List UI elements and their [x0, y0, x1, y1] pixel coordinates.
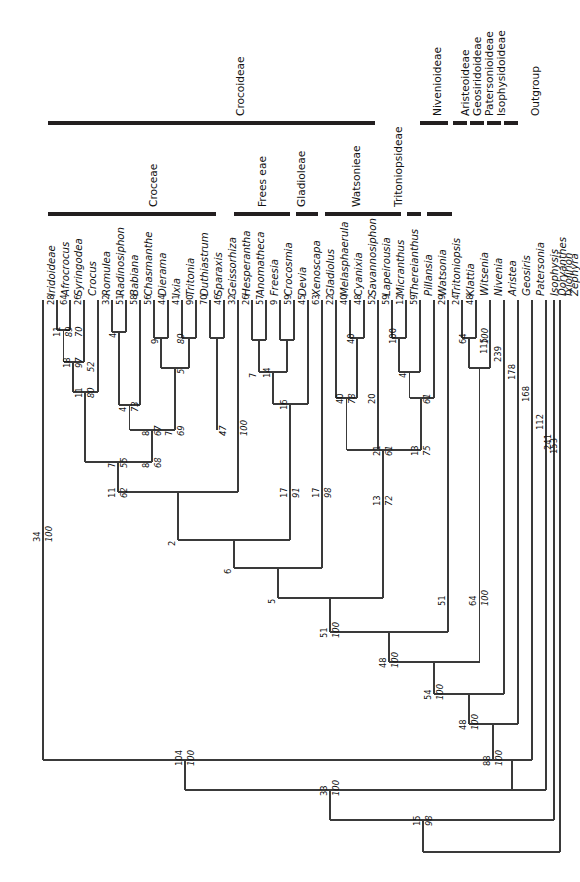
bootstrap-value-83: 13	[373, 495, 381, 506]
branch-length-45: 55	[120, 457, 128, 468]
taxon-label-gladiolus: Gladiolus	[326, 249, 336, 296]
bootstrap-value-86: 51	[320, 627, 328, 638]
bootstrap-value-39: 18	[63, 357, 71, 368]
branch-length-89: 100	[481, 328, 489, 344]
bootstrap-value-27: 24	[452, 294, 460, 305]
branch-length-61: 47	[219, 425, 227, 436]
bootstrap-value-20: 40	[340, 294, 348, 305]
bootstrap-value-105: 33	[320, 785, 328, 796]
taxon-label-melasphaerula: Melasphaerula	[340, 221, 350, 296]
bootstrap-value-0: 28	[47, 294, 55, 305]
bootstrap-value-76: 4	[399, 373, 407, 378]
taxon-label-iridoideae: Iridoideae	[47, 245, 57, 296]
bootstrap-value-95: 54	[424, 689, 432, 700]
branch-length-106: 100	[332, 780, 340, 796]
taxon-label-ixia: Ixia	[172, 278, 182, 296]
branch-length-48: 5	[177, 369, 185, 374]
bootstrap-value-90: 51	[438, 595, 446, 606]
branch-length-92: 100	[481, 590, 489, 606]
taxon-label-hesperantha: Hesperantha	[242, 230, 252, 296]
bootstrap-value-31: 178	[508, 364, 516, 380]
branch-length-80: 61	[385, 445, 393, 456]
taxon-label-pillansia: Pillansia	[424, 254, 434, 296]
branch-length-50: 73	[131, 401, 139, 412]
bar-croceae	[48, 212, 216, 216]
branch-length-67: 91	[292, 487, 300, 498]
taxon-label-micranthus: Micranthus	[396, 240, 406, 296]
label-crocoideae: Crocoideae	[235, 56, 246, 116]
branch-length-100: 100	[495, 750, 503, 766]
branch-length-41: 52	[87, 361, 95, 372]
label-geosiridoideae: Geosiridoideae	[472, 37, 483, 116]
branch-length-40: 97	[75, 357, 83, 368]
branch-length-53: 67	[154, 425, 162, 436]
bootstrap-value-24: 12	[396, 294, 404, 305]
bootstrap-value-73: 40	[336, 393, 344, 404]
bar-isophysidoideae	[504, 121, 518, 125]
taxon-label-crocus: Crocus	[88, 261, 98, 296]
taxon-label-chasmanthe: Chasmanthe	[144, 232, 154, 296]
bootstrap-value-68: 2	[168, 541, 176, 546]
bootstrap-value-88: 64	[459, 333, 467, 344]
bootstrap-value-14: 57	[256, 294, 264, 305]
taxon-label-klattia: Klattia	[466, 263, 476, 296]
bootstrap-value-30: 239	[494, 346, 502, 362]
taxon-label-zephyra: Zephyra	[570, 253, 580, 296]
taxon-label-radinosiphon: Radinosiphon	[116, 227, 126, 296]
bar-crocoideae	[48, 121, 375, 125]
label-freesieae: Frees eae	[257, 156, 268, 207]
bootstrap-value-3: 32	[102, 294, 110, 305]
bar-patersonioideae	[487, 121, 501, 125]
label-gladioleae: Gladioleae	[296, 151, 307, 207]
bar-tribe-extra	[427, 212, 452, 216]
bootstrap-value-10: 70	[200, 294, 208, 305]
taxon-label-patersonia: Patersonia	[536, 242, 546, 296]
bootstrap-value-69: 17	[312, 487, 320, 498]
bootstrap-value-28: 48	[466, 294, 474, 305]
taxon-label-watsonia: Watsonia	[438, 249, 448, 296]
bootstrap-value-57: 7	[165, 431, 173, 436]
branch-length-104: 100	[187, 750, 195, 766]
branch-length-58: 69	[177, 425, 185, 436]
label-isophysidoideae: Isophysidoideae	[496, 30, 507, 116]
bootstrap-value-36: 11	[53, 326, 61, 337]
taxon-label-xenoscapa: Xenoscapa	[312, 240, 322, 296]
bootstrap-value-49: 4	[119, 407, 127, 412]
bootstrap-value-18: 63	[312, 294, 320, 305]
label-aristeoideae: Aristeoideae	[460, 50, 471, 116]
bootstrap-value-101: 34	[33, 531, 41, 542]
branch-length-84: 72	[385, 495, 393, 506]
bootstrap-value-11: 46	[214, 294, 222, 305]
branch-length-102: 100	[45, 526, 53, 542]
bootstrap-value-1: 64	[60, 294, 68, 305]
bootstrap-value-75: 100	[389, 328, 397, 344]
bootstrap-value-5: 58	[130, 294, 138, 305]
taxon-label-savannosiphon: Savannosiphon	[368, 218, 378, 296]
branch-length-60: 68	[154, 457, 162, 468]
taxon-label-sparaxis: Sparaxis	[214, 252, 224, 296]
taxon-label-dierama: Dierama	[158, 252, 168, 296]
bootstrap-value-59: 8	[142, 463, 150, 468]
taxon-label-geissorhiza: Geissorhiza	[228, 237, 238, 296]
bootstrap-value-26: 29	[438, 294, 446, 305]
bootstrap-value-33: 112	[536, 414, 544, 430]
branch-length-108: 98	[425, 815, 433, 826]
bootstrap-value-52: 8	[142, 431, 150, 436]
bootstrap-value-32: 168	[522, 386, 530, 402]
bootstrap-value-85: 5	[268, 599, 276, 604]
label-tritoniopsideae: Tritoniopsideae	[393, 127, 404, 207]
label-nivenioideae: Nivenioideae	[432, 47, 443, 116]
bootstrap-value-81: 13	[411, 445, 419, 456]
bootstrap-value-16: 59	[284, 294, 292, 305]
bar-aristeoideae	[453, 121, 467, 125]
bootstrap-value-9: 90	[186, 294, 194, 305]
label-outgroup: Outgroup	[530, 66, 541, 116]
branch-length-77: 61	[423, 393, 431, 404]
bootstrap-value-4: 51	[116, 294, 124, 305]
bar-watsonieae	[325, 212, 401, 216]
bootstrap-value-17: 45	[298, 294, 306, 305]
taxon-label-romulea: Romulea	[102, 251, 112, 296]
taxon-label-afrocrocus: Afrocrocus	[61, 242, 71, 296]
bootstrap-value-12: 32	[228, 294, 236, 305]
